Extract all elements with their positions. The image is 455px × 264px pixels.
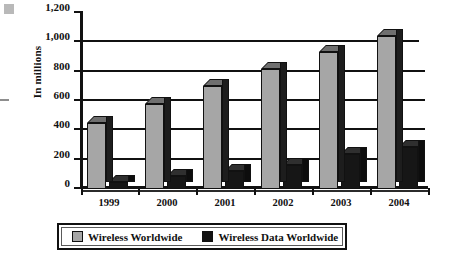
y-axis-tick-label: 400 <box>54 118 71 130</box>
bar-front-face <box>145 104 164 189</box>
bar-side-face <box>164 97 171 182</box>
x-axis-label-2003: 2003 <box>316 197 366 208</box>
bar-2003-series-1 <box>319 52 338 189</box>
x-axis-tick <box>196 188 198 195</box>
bar-1999-series-1 <box>87 123 106 189</box>
scan-artifact-dash <box>0 99 9 101</box>
x-axis-tick <box>138 188 140 195</box>
bar-side-face <box>396 29 403 182</box>
bar-side-face <box>222 79 229 182</box>
x-axis-label-2002: 2002 <box>258 197 308 208</box>
bar-side-face <box>186 169 193 182</box>
bar-front-face <box>377 36 396 189</box>
bar-side-face <box>128 175 135 182</box>
bar-side-face <box>244 164 251 182</box>
x-axis-tick <box>81 188 83 195</box>
bar-front-face <box>87 123 106 189</box>
y-axis-tick <box>74 70 83 72</box>
gridline <box>83 128 425 130</box>
x-axis-tick <box>312 188 314 195</box>
y-axis-tick <box>74 11 83 13</box>
bar-1999-series-2 <box>109 182 128 189</box>
x-axis-tick <box>370 188 372 195</box>
legend-label: Wireless Data Worldwide <box>218 231 338 243</box>
x-axis-label-2001: 2001 <box>200 197 250 208</box>
y-axis-tick <box>74 40 83 42</box>
y-axis-title: In millions <box>31 27 43 117</box>
y-axis-tick-label: 0 <box>65 177 71 189</box>
plot-area: 02004006008001,0001,200 1999200020012002… <box>80 13 428 189</box>
gridline <box>83 70 425 72</box>
x-axis-label-1999: 1999 <box>84 197 134 208</box>
bar-side-face <box>338 45 345 182</box>
legend-swatch-icon <box>72 231 83 242</box>
bar-side-face <box>360 147 367 182</box>
y-axis-tick-label: 200 <box>54 148 71 160</box>
y-axis-tick-label: 800 <box>54 60 71 72</box>
legend-swatch-icon <box>202 231 213 242</box>
chart-figure: In millions 02004006008001,0001,200 1999… <box>0 0 455 264</box>
gridline <box>83 40 419 42</box>
bar-2000-series-1 <box>145 104 164 189</box>
legend-label: Wireless Worldwide <box>88 231 182 243</box>
bar-side-face <box>106 116 113 182</box>
bar-front-face <box>261 69 280 189</box>
x-axis-tick <box>428 188 430 195</box>
gridline <box>83 99 425 101</box>
x-axis-label-2004: 2004 <box>374 197 424 208</box>
y-axis-tick <box>74 128 83 130</box>
bar-2004-series-1 <box>377 36 396 189</box>
x-axis-line-shadow <box>83 190 429 192</box>
y-axis-tick-label: 600 <box>54 89 71 101</box>
y-axis-tick <box>74 99 83 101</box>
x-axis-tick <box>254 188 256 195</box>
bar-side-face <box>302 158 309 182</box>
bar-side-face <box>280 62 287 182</box>
y-axis-tick-label: 1,200 <box>45 1 70 13</box>
bar-front-face <box>203 86 222 189</box>
chart-legend: Wireless WorldwideWireless Data Worldwid… <box>57 223 347 250</box>
legend-item-1[interactable]: Wireless Worldwide <box>72 231 182 243</box>
legend-item-2[interactable]: Wireless Data Worldwide <box>202 231 338 243</box>
scan-artifact-square <box>4 4 14 14</box>
bar-2001-series-1 <box>203 86 222 189</box>
x-axis-label-2000: 2000 <box>142 197 192 208</box>
bar-2002-series-1 <box>261 69 280 189</box>
y-axis-tick-label: 1,000 <box>45 30 70 42</box>
gridline <box>83 158 425 160</box>
bar-front-face <box>109 182 128 189</box>
bar-front-face <box>319 52 338 189</box>
y-axis-tick <box>74 158 83 160</box>
bar-side-face <box>418 140 425 182</box>
